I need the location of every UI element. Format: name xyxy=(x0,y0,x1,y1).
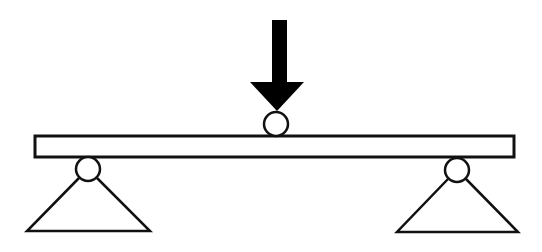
support-triangle xyxy=(397,179,518,232)
load-roller xyxy=(264,112,288,136)
arrow-shaft xyxy=(272,20,287,83)
diagram-canvas xyxy=(0,0,542,252)
beam xyxy=(35,136,514,157)
arrow-down-icon xyxy=(250,82,304,111)
support-triangle xyxy=(27,178,150,231)
right-support xyxy=(397,158,518,232)
support-roller xyxy=(76,157,100,181)
beam-body xyxy=(35,136,514,157)
left-support xyxy=(27,157,150,231)
beam-diagram: Three-point bending: simply supported be… xyxy=(0,0,542,252)
support-roller xyxy=(445,158,469,182)
point-load xyxy=(250,20,304,136)
supports xyxy=(27,157,518,232)
